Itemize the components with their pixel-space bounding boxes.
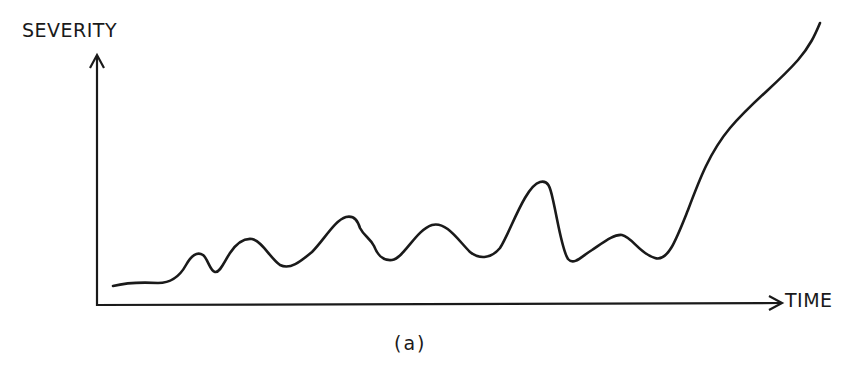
- x-axis-label: TIME: [785, 289, 833, 311]
- x-axis: [96, 303, 781, 305]
- chart-canvas: [0, 0, 863, 368]
- y-axis-label: SEVERITY: [22, 19, 117, 41]
- figure-caption: (a): [394, 332, 426, 354]
- severity-curve: [113, 23, 820, 286]
- severity-time-figure: SEVERITY TIME (a): [0, 0, 863, 368]
